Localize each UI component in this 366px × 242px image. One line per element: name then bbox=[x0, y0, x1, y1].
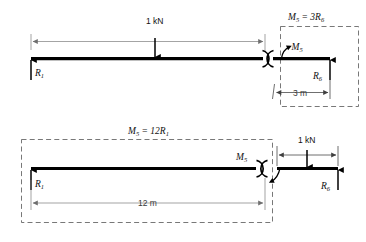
lower-hinge-moment-label: M5 bbox=[235, 152, 248, 163]
upper-span-dimension-line bbox=[31, 34, 265, 52]
lower-span-dimension: 12 m bbox=[31, 178, 265, 210]
upper-right-reaction-label: R6 bbox=[312, 71, 323, 82]
upper-hinge-moment-label: M5 bbox=[291, 42, 304, 53]
upper-segment-dimension: 3 m bbox=[273, 70, 331, 99]
lower-free-body-diagram: M5 = 12R1 M5 R1 12 m bbox=[22, 126, 339, 223]
upper-free-body-diagram: M5 1 kN R1 R6 M5 = 3R6 3 m bbox=[31, 12, 359, 107]
upper-moment-equation-label: M5 = 3R6 bbox=[287, 12, 325, 23]
lower-hinge-symbol bbox=[257, 160, 268, 177]
upper-hinge-symbol bbox=[263, 51, 274, 68]
upper-hinge-moment-arrow bbox=[282, 47, 290, 58]
upper-load-label: 1 kN bbox=[146, 16, 163, 26]
figure-canvas: M5 1 kN R1 R6 M5 = 3R6 3 m M5 = 12R bbox=[0, 0, 366, 242]
lower-dashed-boundary-box bbox=[22, 140, 273, 223]
lower-moment-equation-label: M5 = 12R1 bbox=[127, 126, 169, 137]
lower-right-reaction-label: R6 bbox=[320, 181, 331, 192]
upper-left-reaction-label: R1 bbox=[34, 68, 44, 79]
lower-dimension-label: 12 m bbox=[138, 198, 157, 208]
lower-left-reaction-label: R1 bbox=[34, 179, 44, 190]
upper-dimension-label: 3 m bbox=[293, 88, 307, 98]
lower-load-label: 1 kN bbox=[298, 135, 315, 145]
